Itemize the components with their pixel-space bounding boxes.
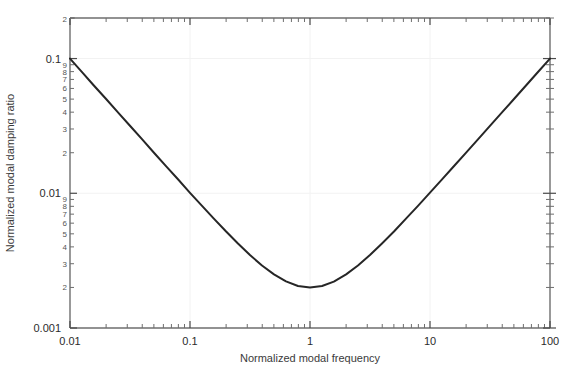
y-minor-tick-label: 3 [63,125,68,134]
y-tick-label: 0.1 [46,53,61,65]
y-minor-tick-label: 6 [63,84,68,93]
y-minor-tick-label: 9 [63,61,68,70]
y-minor-tick-label: 9 [63,195,68,204]
chart-figure: 0.010.1110100 234567892345678920.10.010.… [0,0,578,374]
y-minor-tick-label: 3 [63,260,68,269]
y-minor-tick-label: 2 [63,283,68,292]
y-minor-tick-label: 6 [63,219,68,228]
y-minor-tick-label: 7 [63,210,68,219]
y-minor-tick-label: 5 [63,230,68,239]
y-minor-tick-label: 2 [63,149,68,158]
x-tick-label: 100 [541,335,559,347]
y-minor-tick-label: 5 [63,95,68,104]
x-tick-label: 10 [424,335,436,347]
y-minor-tick-label: 2 [63,15,68,24]
x-tick-label: 0.1 [182,335,197,347]
y-minor-tick-label: 7 [63,75,68,84]
figure-background [0,0,578,374]
y-axis-title: Normalized modal damping ratio [4,94,16,252]
x-tick-label: 0.01 [59,335,80,347]
y-tick-label: 0.001 [33,322,61,334]
y-tick-label: 0.01 [40,187,61,199]
x-axis-title: Normalized modal frequency [240,352,381,364]
x-tick-label: 1 [307,335,313,347]
y-minor-tick-label: 4 [63,243,68,252]
y-minor-tick-label: 4 [63,108,68,117]
